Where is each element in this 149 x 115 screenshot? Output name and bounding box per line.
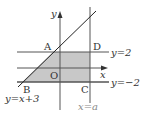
y-axis-arrow-icon — [58, 11, 63, 18]
point-A-label: A — [43, 41, 52, 52]
point-D-label: D — [93, 41, 101, 52]
label-y-equals-neg2: y=−2 — [110, 77, 140, 88]
label-y-equals-x-plus-3: y=x+3 — [4, 93, 39, 104]
label-y-equals-2: y=2 — [110, 47, 131, 58]
coordinate-diagram: y x A D O B C y=2 y=−2 y=x+3 x=a — [0, 0, 149, 115]
label-x-equals-a: x=a — [78, 101, 98, 112]
x-axis-label: x — [100, 69, 106, 80]
y-axis-label: y — [50, 8, 57, 19]
point-C-label: C — [81, 84, 89, 95]
point-O-label: O — [50, 70, 58, 81]
